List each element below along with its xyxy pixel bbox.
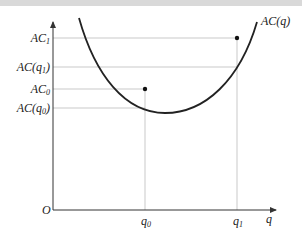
average-cost-diagram: AC(q) AC1 AC(q1) AC0 AC(q0) O q0 q1 q — [0, 0, 302, 243]
ytick-AC1: AC1 — [30, 31, 50, 46]
point-q0-AC0 — [143, 87, 147, 91]
xtick-q1: q1 — [233, 214, 243, 229]
vertical-guides — [145, 38, 237, 210]
ytick-ACq1: AC(q1) — [16, 60, 50, 75]
average-cost-curve — [79, 18, 257, 113]
ytick-ACq0: AC(q0) — [16, 101, 50, 116]
origin-label: O — [42, 203, 51, 217]
xtick-q0: q0 — [141, 214, 151, 229]
point-q1-AC1 — [235, 36, 239, 40]
x-axis-label: q — [266, 212, 272, 226]
ytick-AC0: AC0 — [30, 82, 50, 97]
curve-label: AC(q) — [260, 14, 290, 28]
